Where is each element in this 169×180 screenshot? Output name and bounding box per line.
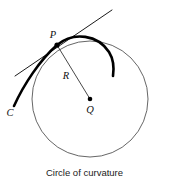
tangent-line — [15, 10, 112, 76]
point-q-dot — [88, 97, 93, 102]
label-point-p: P — [49, 29, 57, 40]
point-p-dot — [54, 42, 59, 47]
circle-of-curvature-diagram: P Q R C Circle of curvature — [0, 0, 169, 180]
label-radius-r: R — [62, 70, 70, 81]
label-point-q: Q — [86, 104, 94, 115]
figure-caption: Circle of curvature — [46, 167, 123, 178]
figure-container: P Q R C Circle of curvature — [0, 0, 169, 180]
label-curve-c: C — [6, 107, 14, 118]
